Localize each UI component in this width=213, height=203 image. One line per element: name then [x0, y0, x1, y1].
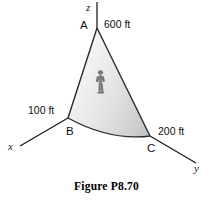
x-axis-line — [20, 118, 68, 146]
dimension-label-100ft: 100 ft — [28, 105, 54, 116]
point-label-c: C — [147, 143, 155, 155]
y-axis-line — [150, 136, 196, 163]
axis-label-x: x — [8, 141, 13, 152]
point-label-a: A — [80, 20, 88, 32]
point-label-b: B — [66, 126, 74, 138]
dimension-label-600ft: 600 ft — [104, 19, 130, 30]
figure-container: z x y A B C 600 ft 100 ft 200 ft Figure … — [0, 0, 213, 203]
axis-label-z: z — [86, 2, 90, 13]
diagram-canvas — [0, 0, 213, 203]
axis-label-y: y — [194, 163, 199, 174]
figure-caption: Figure P8.70 — [0, 180, 213, 192]
triangle-sail-shape — [68, 28, 150, 137]
dimension-label-200ft: 200 ft — [158, 126, 184, 137]
